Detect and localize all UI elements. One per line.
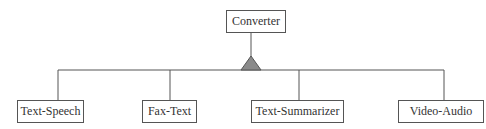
child-node-video-audio: Video-Audio xyxy=(398,100,484,123)
child-node-fax-text: Fax-Text xyxy=(142,100,197,123)
node-label: Text-Summarizer xyxy=(256,104,340,119)
child-node-text-speech: Text-Speech xyxy=(17,100,84,123)
node-label: Fax-Text xyxy=(148,104,191,119)
parent-node-converter: Converter xyxy=(226,10,286,33)
node-label: Converter xyxy=(232,14,280,29)
child-node-text-summarizer: Text-Summarizer xyxy=(251,100,344,123)
inheritance-triangle-icon xyxy=(241,56,261,70)
node-label: Text-Speech xyxy=(21,104,81,119)
node-label: Video-Audio xyxy=(410,104,473,119)
